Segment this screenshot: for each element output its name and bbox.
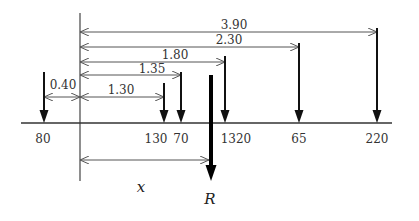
load-arrow-220: 220: [366, 28, 389, 146]
dimension-label: 1.35: [139, 62, 166, 76]
dimension-1-30: 1.30: [80, 83, 164, 97]
force-diagram: 3.90 2.30 1.80 1.35 1.30 0.40 80 130 70 …: [0, 0, 419, 221]
dimension-label: 3.90: [221, 18, 248, 32]
resultant-arrow: R: [203, 75, 216, 208]
load-label: 1320: [221, 132, 252, 146]
load-label: 130: [145, 132, 168, 146]
dimension-label: 2.30: [216, 33, 243, 47]
dimension-label: 1.30: [108, 83, 135, 97]
dimension-label: 0.40: [50, 78, 77, 92]
load-arrow-130: 130: [145, 83, 169, 146]
load-arrow-70: 70: [173, 72, 188, 146]
load-arrow-65: 65: [291, 43, 306, 146]
load-label: 220: [366, 132, 389, 146]
load-arrow-80: 80: [35, 72, 50, 146]
load-label: 70: [173, 132, 188, 146]
dimension-0-40: 0.40: [44, 78, 80, 97]
dimension-label: 1.80: [162, 48, 189, 62]
load-label: 65: [291, 132, 306, 146]
load-arrow-1320: 1320: [221, 56, 252, 146]
dimension-2-30: 2.30: [80, 33, 299, 47]
distance-x-dimension: x: [80, 160, 209, 196]
dimension-3-90: 3.90: [80, 18, 377, 32]
resultant-label: R: [203, 190, 215, 208]
dimension-1-35: 1.35: [80, 62, 181, 76]
load-label: 80: [35, 132, 50, 146]
distance-label: x: [137, 178, 146, 196]
dimension-1-80: 1.80: [80, 48, 225, 62]
